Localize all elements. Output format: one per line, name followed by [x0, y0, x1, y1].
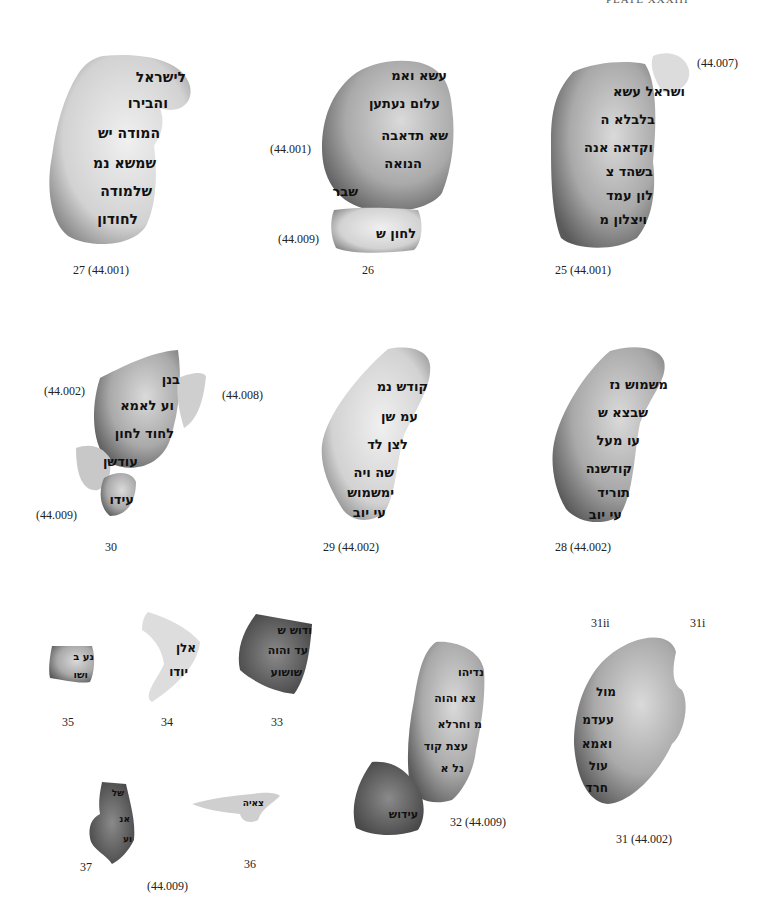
fragment-36-37-sublabel-44009: (44.009) — [147, 879, 188, 894]
svg-text:שה ויה: שה ויה — [353, 465, 394, 480]
fragment-26-label: 26 — [362, 263, 374, 278]
fragment-35: נע ב ושו — [48, 644, 96, 686]
svg-text:צא והוה: צא והוה — [434, 692, 476, 705]
fragment-28-image: משמוש נז שבצא ש עו מעל קודשנה תוריד עי י… — [548, 343, 673, 528]
svg-text:נל א: נל א — [441, 762, 464, 775]
fragment-30-image: בנן וע לאמא לחוד לחון עודשן עידו — [70, 348, 210, 523]
svg-text:של: של — [112, 788, 124, 798]
svg-text:לחון ש: לחון ש — [376, 226, 416, 241]
fragment-34-image: אלן יודו — [138, 612, 208, 704]
svg-text:עצת קוד: עצת קוד — [424, 740, 468, 753]
svg-text:נע ב: נע ב — [73, 651, 94, 662]
svg-text:שלמודה: שלמודה — [100, 183, 152, 199]
svg-text:קודשנה: קודשנה — [586, 461, 632, 476]
svg-text:עד והוה: עד והוה — [268, 644, 308, 657]
svg-text:הנואה: הנואה — [384, 156, 422, 171]
fragment-25-image: ושראל עשא בלבלא ה וקדאה אנה בשהד צ לון ע… — [545, 52, 695, 252]
svg-text:עודשן: עודשן — [103, 454, 138, 469]
fragment-25-sublabel-44007: (44.007) — [697, 56, 738, 71]
fragment-30-label: 30 — [105, 540, 117, 555]
fragment-30: בנן וע לאמא לחוד לחון עודשן עידו — [70, 348, 210, 523]
svg-text:בנן: בנן — [162, 372, 180, 387]
fragment-28: משמוש נז שבצא ש עו מעל קודשנה תוריד עי י… — [548, 343, 673, 528]
svg-text:לחוד לחון: לחוד לחון — [115, 426, 174, 441]
svg-text:שושוע: שושוע — [270, 666, 302, 679]
svg-text:ימשמוש: ימשמוש — [347, 485, 394, 500]
svg-text:עי יוב: עי יוב — [589, 507, 622, 522]
fragment-30-sublabel-44008: (44.008) — [222, 388, 263, 403]
fragment-26-sublabel-44009: (44.009) — [278, 232, 319, 247]
fragment-30-sublabel-44009: (44.009) — [36, 508, 77, 523]
svg-text:תוריד: תוריד — [597, 485, 630, 500]
svg-text:ושו: ושו — [74, 669, 88, 680]
fragment-31: מול עעדמ ואמא עול חרד — [572, 634, 702, 809]
fragment-27: לישראל והבירו המודה יש שמשא נמ שלמודה לח… — [48, 56, 188, 246]
svg-text:קודש נמ: קודש נמ — [377, 379, 428, 394]
fragment-30-sublabel-44002: (44.002) — [44, 384, 85, 399]
svg-text:אלן: אלן — [176, 641, 196, 655]
svg-text:עול: עול — [589, 759, 608, 773]
svg-text:בשהד צ: בשהד צ — [606, 164, 653, 179]
fragment-35-label: 35 — [62, 715, 74, 730]
fragment-31-sublabel-31ii: 31ii — [591, 616, 610, 631]
fragment-31-label: 31 (44.002) — [616, 832, 672, 847]
fragment-33-label: 33 — [271, 715, 283, 730]
svg-text:והבירו: והבירו — [128, 95, 168, 111]
fragment-33-image: ודוש ש עד והוה שושוע — [236, 612, 316, 696]
svg-text:המודה יש: המודה יש — [98, 125, 160, 141]
svg-text:שבר: שבר — [332, 184, 358, 199]
svg-text:ויצלון מ: ויצלון מ — [600, 212, 648, 227]
svg-text:וע: וע — [123, 834, 132, 844]
fragment-31-image: מול עעדמ ואמא עול חרד — [572, 634, 702, 809]
svg-text:שא תדאבה: שא תדאבה — [381, 128, 448, 143]
svg-text:משמוש נז: משמוש נז — [609, 377, 668, 392]
fragment-31-sublabel-31i: 31i — [690, 616, 705, 631]
fragment-33: ודוש ש עד והוה שושוע — [236, 612, 316, 696]
svg-text:צאיה: צאיה — [243, 798, 264, 808]
fragment-29-label: 29 (44.002) — [323, 540, 379, 555]
fragment-37-label: 37 — [80, 860, 92, 875]
svg-text:וע לאמא: וע לאמא — [120, 398, 174, 413]
fragment-32-label: 32 (44.009) — [450, 815, 506, 830]
svg-text:שמשא נמ: שמשא נמ — [93, 155, 156, 171]
fragment-36-image: צאיה — [192, 792, 282, 826]
svg-text:עמ שן: עמ שן — [381, 409, 418, 424]
svg-text:לישראל: לישראל — [136, 69, 186, 85]
fragment-26: עשא ואמ עלום נעתען שא תדאבה הנואה שבר לח… — [322, 58, 462, 253]
fragment-37-image: של אנ וע — [88, 782, 140, 864]
svg-text:מ וחרלא: מ וחרלא — [438, 718, 482, 731]
svg-text:עידוש: עידוש — [389, 808, 418, 821]
fragment-34: אלן יודו — [138, 612, 208, 704]
svg-text:נדיהו: נדיהו — [458, 666, 484, 679]
svg-text:ואמא: ואמא — [582, 737, 612, 751]
fragment-26-sublabel-44001: (44.001) — [270, 142, 311, 157]
svg-text:אנ: אנ — [119, 814, 130, 824]
fragment-32-image: נדיהו צא והוה מ וחרלא עצת קוד נל א עידוש — [352, 640, 502, 840]
svg-text:בלבלא ה: בלבלא ה — [600, 112, 655, 127]
fragment-25: ושראל עשא בלבלא ה וקדאה אנה בשהד צ לון ע… — [545, 52, 695, 252]
fragment-27-label: 27 (44.001) — [73, 263, 129, 278]
fragment-27-image: לישראל והבירו המודה יש שמשא נמ שלמודה לח… — [48, 56, 188, 246]
plate-header: PLATE XXXIII — [606, 0, 689, 5]
fragment-36-label: 36 — [244, 857, 256, 872]
svg-text:ושראל עשא: ושראל עשא — [613, 84, 685, 99]
svg-text:חרד: חרד — [585, 781, 608, 795]
svg-text:לצן לד: לצן לד — [367, 437, 408, 452]
svg-text:עעדמ: עעדמ — [582, 713, 614, 727]
svg-text:עו מעל: עו מעל — [596, 433, 640, 448]
svg-text:מול: מול — [596, 685, 616, 699]
svg-text:ודוש ש: ודוש ש — [277, 624, 312, 637]
fragment-34-label: 34 — [161, 715, 173, 730]
svg-text:לון עמד: לון עמד — [606, 188, 653, 203]
svg-text:עי יוב: עי יוב — [353, 505, 386, 520]
fragment-29-image: קודש נמ עמ שן לצן לד שה ויה ימשמוש עי יו… — [318, 345, 443, 525]
svg-text:עידו: עידו — [109, 492, 134, 507]
svg-text:עשא ואמ: עשא ואמ — [391, 68, 447, 83]
svg-text:שבצא ש: שבצא ש — [598, 405, 648, 420]
fragment-26-image: עשא ואמ עלום נעתען שא תדאבה הנואה שבר לח… — [322, 58, 462, 253]
fragment-28-label: 28 (44.002) — [555, 540, 611, 555]
fragment-32: נדיהו צא והוה מ וחרלא עצת קוד נל א עידוש — [352, 640, 502, 840]
svg-text:עלום נעתען: עלום נעתען — [369, 96, 440, 111]
svg-text:וקדאה אנה: וקדאה אנה — [584, 140, 653, 155]
fragment-36: צאיה — [192, 792, 282, 826]
